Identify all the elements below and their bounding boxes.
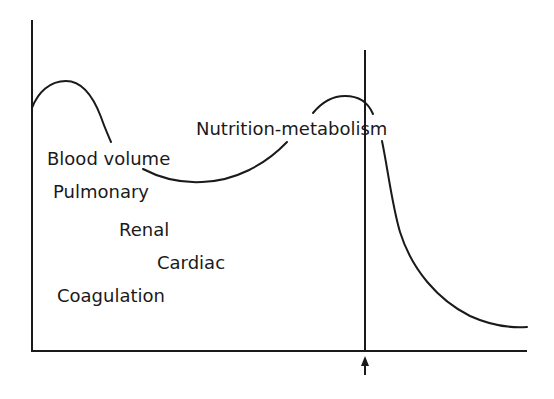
label-renal: Renal — [119, 219, 169, 240]
up-arrow-icon — [361, 356, 369, 375]
label-cardiac: Cardiac — [157, 252, 225, 273]
label-blood-volume: Blood volume — [47, 148, 170, 169]
diagram: Nutrition-metabolism Blood volume Pulmon… — [0, 0, 554, 399]
label-pulmonary: Pulmonary — [53, 181, 149, 202]
curve-decline — [382, 141, 527, 327]
curve-first-peak — [32, 81, 111, 142]
label-coagulation: Coagulation — [57, 285, 165, 306]
label-nutrition-metabolism: Nutrition-metabolism — [196, 118, 387, 139]
